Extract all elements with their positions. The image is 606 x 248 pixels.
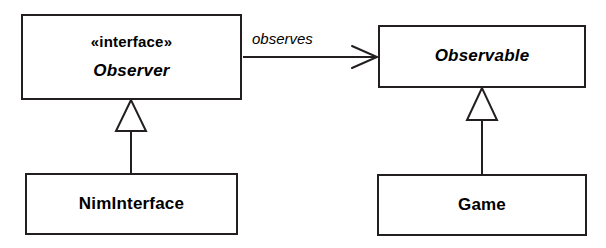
association-label-observes: observes bbox=[252, 30, 313, 47]
class-name-niminterface: NimInterface bbox=[79, 194, 184, 214]
class-box-observer-content: «interface» Observer bbox=[91, 33, 172, 81]
class-box-observer[interactable]: «interface» Observer bbox=[21, 14, 242, 100]
class-box-observable[interactable]: Observable bbox=[378, 25, 586, 88]
class-box-game[interactable]: Game bbox=[377, 174, 587, 236]
connector-niminterface-implements-observer bbox=[116, 100, 146, 173]
class-name-observable: Observable bbox=[435, 46, 530, 66]
connector-game-extends-observable bbox=[467, 88, 497, 174]
uml-class-diagram: «interface» Observer Observable NimInter… bbox=[0, 0, 606, 248]
class-name-observer: Observer bbox=[93, 61, 169, 81]
connector-observes bbox=[243, 46, 377, 68]
hollow-triangle-icon bbox=[116, 100, 146, 131]
hollow-triangle-icon bbox=[467, 88, 497, 120]
class-box-niminterface[interactable]: NimInterface bbox=[25, 173, 238, 235]
class-name-game: Game bbox=[458, 195, 506, 215]
open-arrowhead-icon bbox=[352, 46, 377, 68]
stereotype-interface: «interface» bbox=[91, 33, 172, 50]
